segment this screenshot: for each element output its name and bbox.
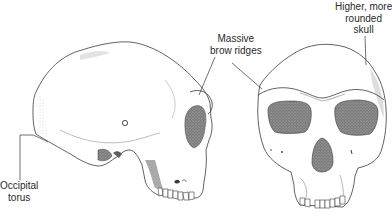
label-line: brow ridges <box>210 45 262 57</box>
frontal-skull-view <box>258 44 387 208</box>
leader-brow-left <box>199 57 215 95</box>
label-higher-rounded-skull: Higher, more rounded skull <box>335 1 392 36</box>
lateral-skull-view <box>33 42 212 200</box>
label-line: rounded <box>335 13 392 25</box>
label-line: torus <box>0 192 38 204</box>
frontal-orbit-right <box>335 100 378 135</box>
frontal-orbit-left <box>268 101 311 134</box>
leader-torus <box>20 135 33 180</box>
label-massive-brow-ridges: Massive brow ridges <box>210 33 262 56</box>
label-line: Massive <box>210 33 262 45</box>
ear-opening <box>122 120 127 125</box>
label-occipital-torus: Occipital torus <box>0 180 38 203</box>
leader-brow-right <box>232 63 262 89</box>
skull-illustration <box>0 0 392 217</box>
label-line: Higher, more <box>335 1 392 13</box>
label-line: skull <box>335 24 392 36</box>
label-line: Occipital <box>0 180 38 192</box>
